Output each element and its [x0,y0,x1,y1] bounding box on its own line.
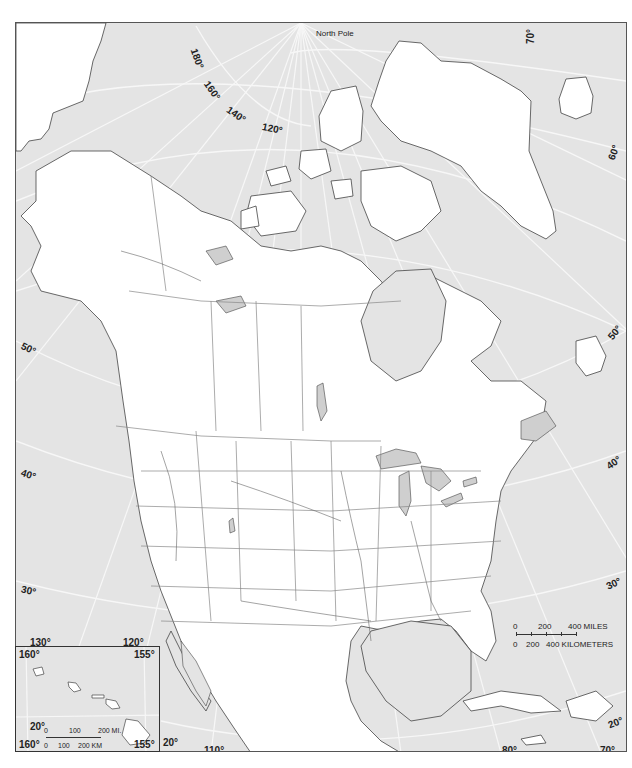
baffin-island [361,166,441,241]
lat-label-20-bottom: 20° [163,737,178,748]
ellesmere-island [319,86,363,151]
inset-lon-160-bottom: 160° [19,739,40,750]
lon-label-80: 80° [502,745,517,752]
hawaii-inset: 160° 155° 20° 160° 155° 0 100 200 MI. 0 … [15,646,160,752]
scale-miles-0: 0 [513,622,517,631]
maui-island [106,699,120,709]
gulf-of-mexico [361,621,471,721]
scale-km-200: 200 [526,640,539,649]
hispaniola-island [566,691,613,721]
inset-scale-mi-200: 200 MI. [98,727,121,734]
map-frame: North Pole 180° 160° 140° 120° 70° 60° 5… [15,22,627,752]
molokai-island [92,695,104,698]
scale-km-0: 0 [513,640,517,649]
iceland-landmass [559,77,593,119]
scale-km-400: 400 KILOMETERS [546,640,613,649]
oahu-island [68,682,81,692]
kauai-island [33,667,44,676]
inset-lon-155-top: 155° [134,649,155,660]
north-pole-label: North Pole [316,29,354,38]
inset-scale-km-0: 0 [44,742,48,749]
lon-label-110: 110° [204,745,224,752]
inset-lon-155-bottom: 155° [134,739,155,750]
inset-scale-bar [46,737,101,738]
inset-scale-mi-100: 100 [69,727,81,734]
inset-scale-km-200: 200 KM [78,742,102,749]
newfoundland-island [576,336,606,376]
inset-lat-20: 20° [30,721,45,732]
lat-label-right-70: 70° [525,29,536,44]
scale-miles-200: 200 [538,622,551,631]
inset-scale-mi-0: 0 [44,727,48,734]
jamaica-island [521,735,546,745]
hawaii-islands [33,667,150,745]
lon-label-70: 70° [600,745,615,752]
scale-miles-400: 400 MILES [568,622,608,631]
cuba-island [463,691,561,713]
inset-scale-km-100: 100 [58,742,70,749]
landmasses [16,23,613,752]
inset-lon-160-top: 160° [19,649,40,660]
